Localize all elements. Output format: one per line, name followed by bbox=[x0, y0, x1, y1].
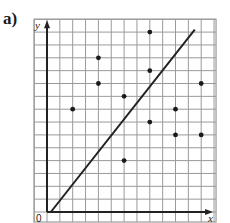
data-point bbox=[199, 81, 204, 86]
data-point bbox=[96, 81, 101, 86]
data-point bbox=[147, 68, 152, 73]
data-point bbox=[199, 133, 204, 138]
data-point bbox=[96, 55, 101, 60]
origin-label: 0 bbox=[36, 213, 42, 223]
x-axis-label: x bbox=[207, 212, 213, 223]
grid bbox=[34, 19, 216, 223]
data-point bbox=[122, 94, 127, 99]
data-point bbox=[173, 133, 178, 138]
y-axis-arrow-icon bbox=[44, 20, 50, 28]
data-point bbox=[147, 30, 152, 35]
scatter-plot: yx0 bbox=[0, 0, 230, 223]
data-point bbox=[147, 120, 152, 125]
data-point bbox=[122, 158, 127, 163]
data-point bbox=[70, 107, 75, 112]
data-point bbox=[173, 107, 178, 112]
y-axis-label: y bbox=[34, 19, 40, 31]
